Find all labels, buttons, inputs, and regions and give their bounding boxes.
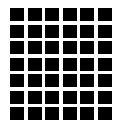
black-square [28, 25, 42, 38]
black-square [10, 107, 24, 120]
black-square [63, 91, 77, 104]
black-square [98, 8, 112, 21]
black-square [80, 74, 94, 87]
black-square [45, 25, 59, 38]
black-square [28, 8, 42, 21]
black-square [80, 41, 94, 54]
black-square [98, 25, 112, 38]
black-square [98, 58, 112, 71]
black-square [28, 58, 42, 71]
black-square [63, 8, 77, 21]
black-square [45, 91, 59, 104]
black-square [98, 41, 112, 54]
black-square [28, 74, 42, 87]
black-square [80, 8, 94, 21]
black-square [10, 8, 24, 21]
black-square [28, 91, 42, 104]
black-square [10, 74, 24, 87]
square-grid [10, 8, 112, 120]
black-square [80, 58, 94, 71]
black-square [45, 74, 59, 87]
black-square [28, 41, 42, 54]
black-square [63, 25, 77, 38]
black-square [45, 107, 59, 120]
black-square [45, 58, 59, 71]
black-square [80, 91, 94, 104]
black-square [10, 25, 24, 38]
black-square [98, 91, 112, 104]
black-square [63, 41, 77, 54]
black-square [98, 74, 112, 87]
black-square [63, 107, 77, 120]
black-square [28, 107, 42, 120]
black-square [63, 58, 77, 71]
black-square [98, 107, 112, 120]
black-square [45, 8, 59, 21]
black-square [63, 74, 77, 87]
black-square [10, 41, 24, 54]
black-square [10, 91, 24, 104]
black-square [45, 41, 59, 54]
black-square [10, 58, 24, 71]
black-square [80, 25, 94, 38]
black-square [80, 107, 94, 120]
